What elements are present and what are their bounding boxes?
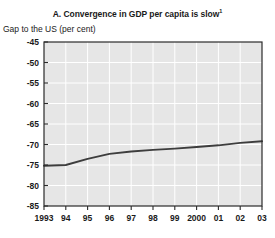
- x-tick-label: 01: [214, 213, 224, 223]
- chart-plot: -45-50-55-60-65-70-75-80-85 199394959697…: [0, 0, 275, 238]
- y-tick-label: -70: [27, 140, 40, 150]
- x-tick-label: 94: [61, 213, 71, 223]
- chart-figure: A. Convergence in GDP per capita is slow…: [0, 0, 275, 238]
- y-axis-tick-labels: -45-50-55-60-65-70-75-80-85: [27, 37, 40, 211]
- x-tick-label: 98: [148, 213, 158, 223]
- x-tick-label: 02: [235, 213, 245, 223]
- y-tick-label: -55: [27, 78, 40, 88]
- x-tick-label: 2000: [187, 213, 206, 223]
- x-tick-label: 95: [83, 213, 93, 223]
- y-tick-label: -85: [27, 201, 40, 211]
- x-tick-label: 1993: [35, 213, 54, 223]
- x-tick-label: 03: [257, 213, 267, 223]
- y-tick-label: -50: [27, 58, 40, 68]
- y-tick-label: -60: [27, 99, 40, 109]
- x-tick-label: 97: [126, 213, 136, 223]
- y-tick-label: -65: [27, 119, 40, 129]
- x-tick-label: 99: [170, 213, 180, 223]
- x-axis-tick-labels: 19939495969798992000010203: [35, 213, 267, 223]
- y-tick-label: -75: [27, 160, 40, 170]
- y-tick-label: -45: [27, 37, 40, 47]
- x-tick-label: 96: [105, 213, 115, 223]
- y-tick-label: -80: [27, 181, 40, 191]
- x-axis-tick-marks: [44, 206, 262, 210]
